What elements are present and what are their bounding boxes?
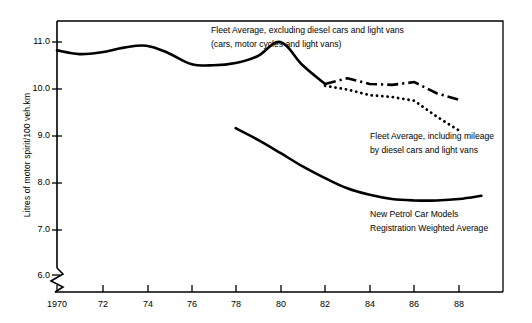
plot-area: [0, 0, 532, 323]
chart-figure: Litres of motor spirit/100 veh.km 11.0 1…: [0, 0, 532, 323]
series-fleet-average-including-diesel: [325, 86, 459, 131]
x-axis-ticks: [57, 285, 459, 292]
series-new-petrol-car-models: [236, 128, 482, 200]
series-fleet-average-excluding-diesel: [57, 42, 325, 84]
plot-frame: [57, 21, 503, 292]
